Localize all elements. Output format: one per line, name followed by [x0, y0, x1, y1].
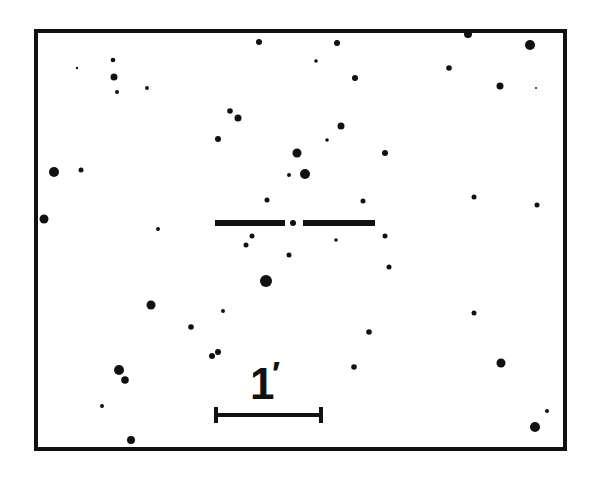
star	[215, 136, 221, 142]
star	[314, 59, 318, 63]
star	[352, 75, 358, 81]
star	[464, 30, 472, 38]
star	[545, 409, 549, 413]
star	[76, 67, 78, 69]
star	[147, 301, 156, 310]
star	[111, 58, 116, 63]
star	[287, 253, 292, 258]
star	[338, 123, 345, 130]
star	[497, 359, 506, 368]
star	[334, 238, 338, 242]
star	[127, 436, 135, 444]
star	[535, 203, 540, 208]
star	[361, 199, 366, 204]
star	[40, 215, 49, 224]
star	[300, 169, 310, 179]
chart-frame	[36, 31, 565, 449]
marker-left-bar	[215, 220, 285, 226]
star	[250, 234, 255, 239]
star	[383, 234, 388, 239]
star	[215, 349, 221, 355]
star	[114, 365, 124, 375]
star	[530, 422, 540, 432]
scale-bar-line	[216, 413, 321, 417]
star	[235, 115, 242, 122]
star	[244, 243, 249, 248]
star	[287, 173, 291, 177]
star	[221, 309, 225, 313]
finding-chart	[0, 0, 592, 481]
star	[446, 65, 452, 71]
target-star	[290, 220, 296, 226]
star	[265, 198, 270, 203]
star	[382, 150, 388, 156]
star	[227, 108, 233, 114]
marker-right-bar	[303, 220, 375, 226]
star	[334, 40, 340, 46]
scale-bar-right-tick	[319, 407, 323, 423]
star	[145, 86, 149, 90]
star	[325, 138, 329, 142]
star-field	[40, 30, 550, 444]
star	[100, 404, 104, 408]
star	[472, 311, 477, 316]
star	[49, 167, 59, 177]
star	[351, 364, 357, 370]
scale-bar	[214, 407, 323, 423]
arcminute-symbol: ′	[272, 356, 280, 390]
star	[366, 329, 372, 335]
star	[209, 353, 215, 359]
star	[121, 376, 129, 384]
star	[115, 90, 119, 94]
scale-bar-label: 1	[250, 362, 274, 406]
star	[293, 149, 302, 158]
star	[188, 324, 194, 330]
star	[156, 227, 160, 231]
star	[79, 168, 84, 173]
star	[260, 275, 272, 287]
star	[535, 87, 537, 89]
star	[525, 40, 535, 50]
scale-bar-left-tick	[214, 407, 218, 423]
target-marker	[215, 220, 375, 226]
star	[497, 83, 504, 90]
star	[387, 265, 392, 270]
star	[111, 74, 118, 81]
star	[256, 39, 262, 45]
star	[472, 195, 477, 200]
